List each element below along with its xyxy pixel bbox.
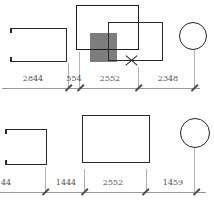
- dimension-value: 1459: [163, 179, 183, 187]
- dimension-value: 1444: [56, 179, 76, 187]
- dimension-value: 2552: [100, 75, 120, 83]
- extension-line: [45, 167, 46, 192]
- rectangle-top-left-open: [10, 28, 67, 62]
- wall-stub-icon: [5, 130, 7, 134]
- circle-top-right: [179, 22, 207, 50]
- rectangle-bottom-left-open: [5, 129, 47, 165]
- dimension-line-bottom: [0, 192, 206, 193]
- x-marker-icon: [125, 55, 138, 67]
- extension-line: [194, 148, 195, 192]
- wall-stub-icon: [10, 57, 12, 61]
- rectangle-bottom-middle: [82, 115, 150, 163]
- dimension-value: 554: [66, 75, 81, 83]
- wall-stub-icon: [10, 29, 12, 33]
- wall-stub-icon: [5, 160, 7, 164]
- extension-line: [194, 50, 195, 88]
- dimension-value: 2552: [103, 179, 123, 187]
- circle-bottom-right: [180, 118, 210, 148]
- dimension-value: 44: [1, 179, 11, 187]
- dimension-value: 2844: [23, 75, 43, 83]
- extension-line: [138, 67, 139, 88]
- cad-drawing-canvas: 2844 554 2552 2348 44 1444 2552 1459: [0, 0, 214, 211]
- dimension-line-top: [2, 88, 200, 89]
- dimension-value: 2348: [158, 75, 178, 83]
